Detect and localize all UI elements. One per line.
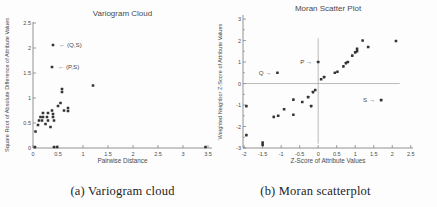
data-point — [336, 70, 339, 73]
data-point — [277, 114, 280, 117]
data-point — [53, 146, 56, 149]
data-point — [310, 105, 313, 108]
data-point — [283, 108, 286, 111]
data-point — [342, 65, 345, 68]
y-tick-label: 3 — [238, 16, 241, 22]
data-point — [39, 116, 42, 119]
charts-canvas: 00.511.522.533.500.511.522.5← (Q,S)← (P,… — [0, 0, 437, 180]
chart-0: 00.511.522.533.500.511.522.5← (Q,S)← (P,… — [4, 9, 212, 164]
data-point — [34, 146, 37, 149]
data-point — [334, 71, 337, 74]
data-point — [37, 124, 40, 127]
data-point — [38, 119, 41, 122]
y-tick-label: -1 — [236, 102, 241, 108]
annotation-label: S → — [363, 96, 375, 103]
x-axis-label: Z-Score of Attribute Values — [291, 157, 366, 164]
y-tick-label: -3 — [236, 145, 241, 151]
x-tick-label: 2.5 — [407, 151, 415, 157]
x-tick-label: 2.5 — [154, 151, 162, 157]
y-tick-label: 1.5 — [23, 70, 31, 76]
data-point — [44, 123, 47, 126]
data-point — [52, 113, 55, 116]
x-tick-label: 2 — [391, 151, 394, 157]
data-point — [314, 89, 317, 92]
data-point — [92, 84, 95, 87]
annotation-label: Q → — [259, 69, 272, 76]
y-axis-label: Square Root of Absolute Difference of At… — [4, 18, 10, 152]
data-point — [67, 110, 70, 113]
data-point — [61, 91, 64, 94]
data-point — [347, 61, 350, 64]
data-point — [292, 113, 295, 116]
x-tick-label: 3.5 — [204, 151, 212, 157]
data-point — [67, 107, 70, 110]
data-point — [245, 134, 248, 137]
y-tick-label: 0.5 — [23, 120, 31, 126]
data-point — [292, 98, 295, 101]
x-tick-label: 0.5 — [54, 151, 62, 157]
data-point — [301, 101, 304, 104]
data-point — [272, 116, 275, 119]
y-axis-label: Weighted Neighbor Z-Score of Attribute V… — [217, 23, 223, 139]
annotation-label: ← (P,S) — [58, 63, 79, 70]
x-tick-label: 1 — [81, 151, 84, 157]
data-point — [351, 54, 354, 57]
data-point — [34, 130, 37, 133]
annotation-label: ← (Q,S) — [59, 41, 82, 48]
y-tick-label: 0 — [238, 81, 241, 87]
y-tick-label: 1 — [238, 59, 241, 65]
x-tick-label: 3 — [181, 151, 184, 157]
x-tick-label: -2 — [242, 151, 247, 157]
data-point — [52, 44, 55, 47]
data-point — [261, 141, 264, 144]
data-point — [356, 47, 359, 50]
data-point — [41, 119, 44, 122]
data-point — [245, 105, 248, 108]
annotation-label: P → — [300, 58, 312, 65]
data-point — [367, 46, 370, 49]
y-tick-label: 2.5 — [23, 20, 31, 26]
plot-title: Variogram Cloud — [93, 9, 152, 18]
x-tick-label: 1.5 — [370, 151, 378, 157]
data-point — [47, 119, 50, 122]
x-tick-label: -1 — [279, 151, 284, 157]
data-point — [61, 88, 64, 91]
data-point — [63, 109, 66, 112]
chart-1: -2-1.5-1-0.500.511.522.5-3-2-10123Q →P →… — [217, 4, 415, 164]
data-point — [42, 116, 45, 119]
data-point — [395, 40, 398, 43]
x-tick-label: -1.5 — [258, 151, 267, 157]
data-point — [356, 50, 359, 53]
plot-title: Moran Scatter Plot — [295, 4, 362, 13]
x-tick-label: 0 — [31, 151, 34, 157]
data-point — [47, 112, 50, 115]
x-axis-label: Pairwise Distance — [97, 157, 148, 164]
y-tick-label: 2 — [28, 45, 31, 51]
data-point — [361, 39, 364, 42]
data-point — [51, 66, 54, 69]
data-point — [42, 112, 45, 115]
y-tick-label: 2 — [238, 38, 241, 44]
caption-moran-scatterplot: (b) Moran scatterplot — [233, 184, 398, 199]
data-point — [307, 96, 310, 99]
data-point — [380, 99, 383, 102]
figure-panel: 00.511.522.533.500.511.522.5← (Q,S)← (P,… — [0, 0, 437, 207]
y-tick-label: 1 — [28, 95, 31, 101]
data-point — [53, 119, 56, 122]
data-point — [57, 105, 60, 108]
data-point — [51, 109, 54, 112]
data-point — [312, 91, 315, 94]
data-point — [49, 126, 52, 129]
axis-lines — [243, 15, 413, 148]
data-point — [323, 76, 326, 79]
data-point — [320, 78, 323, 81]
data-point — [59, 102, 62, 105]
data-point — [46, 116, 49, 119]
data-point — [56, 146, 59, 149]
caption-variogram-cloud: (a) Variogram cloud — [35, 184, 210, 199]
y-tick-label: -2 — [236, 124, 241, 130]
y-tick-label: 0 — [28, 145, 31, 151]
data-point — [52, 116, 55, 119]
data-point — [261, 144, 264, 147]
data-point — [317, 61, 320, 64]
